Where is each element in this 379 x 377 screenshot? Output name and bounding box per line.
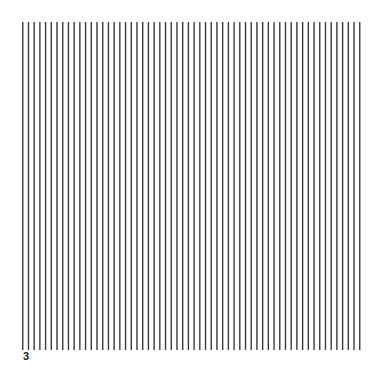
- grating-lines: [22, 22, 361, 350]
- vertical-line-grating: [22, 22, 361, 350]
- figure-label: 3: [23, 351, 29, 362]
